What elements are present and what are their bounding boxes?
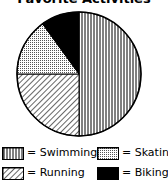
vertical-lines-swatch-icon bbox=[2, 147, 24, 160]
legend-item-swimming: = Swimming bbox=[2, 146, 97, 160]
solid-black-swatch-icon bbox=[97, 167, 119, 180]
pie-slice-swimming bbox=[79, 12, 141, 136]
dots-swatch-icon bbox=[97, 147, 119, 160]
legend-item-skating: = Skating bbox=[97, 146, 168, 160]
legend-item-biking: = Biking bbox=[97, 166, 168, 180]
legend-item-running: = Running bbox=[2, 166, 85, 180]
diagonal-lines-swatch-icon bbox=[2, 167, 24, 180]
legend-label: = Skating bbox=[122, 146, 168, 160]
legend-label: = Running bbox=[27, 166, 85, 180]
pie-slice-running bbox=[17, 74, 79, 136]
legend-label: = Biking bbox=[122, 166, 168, 180]
pie-chart bbox=[0, 0, 168, 189]
legend-label: = Swimming bbox=[27, 146, 97, 160]
